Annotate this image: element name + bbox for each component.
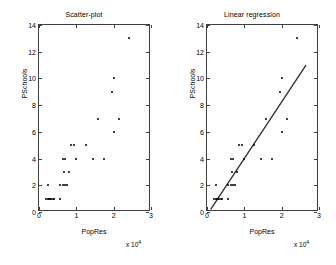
y-tick-label: 14 xyxy=(196,22,204,29)
y-tick-label: 4 xyxy=(200,155,204,162)
data-point xyxy=(70,144,72,146)
data-point xyxy=(113,131,115,133)
x-tick-label: 0 xyxy=(205,212,209,219)
y-tick-mark xyxy=(146,105,149,106)
y-tick-label: 6 xyxy=(200,128,204,135)
data-point xyxy=(73,144,75,146)
data-point xyxy=(85,144,87,146)
data-point xyxy=(66,184,68,186)
panel-scatter: Scatter-plot024681012140123PSchoolsPopRe… xyxy=(0,0,168,265)
data-point xyxy=(64,158,66,160)
data-point xyxy=(271,158,273,160)
y-tick-mark xyxy=(146,52,149,53)
x-tick-label: 0 xyxy=(37,212,41,219)
data-point xyxy=(118,118,120,120)
y-tick-mark xyxy=(39,185,42,186)
data-point xyxy=(236,171,238,173)
data-point xyxy=(128,37,130,39)
data-point xyxy=(241,144,243,146)
panel-regression: Linear regression024681012140123PSchools… xyxy=(168,0,336,265)
y-tick-label: 0 xyxy=(200,209,204,216)
data-point xyxy=(243,158,245,160)
data-point xyxy=(92,158,94,160)
data-point xyxy=(47,184,49,186)
data-point xyxy=(227,184,229,186)
plot-area: 024681012140123 xyxy=(38,24,150,211)
data-point xyxy=(286,118,288,120)
y-tick-label: 10 xyxy=(196,75,204,82)
data-point xyxy=(265,118,267,120)
data-point xyxy=(253,144,255,146)
x-tick-mark xyxy=(114,25,115,28)
figure-container: Scatter-plot024681012140123PSchoolsPopRe… xyxy=(0,0,336,265)
data-point xyxy=(281,77,283,79)
data-point xyxy=(234,184,236,186)
x-tick-mark xyxy=(151,207,152,210)
y-tick-label: 4 xyxy=(32,155,36,162)
data-point xyxy=(63,171,65,173)
x-tick-mark xyxy=(39,207,40,210)
panel-title: Linear regression xyxy=(168,11,336,18)
plot-area: 024681012140123 xyxy=(206,24,318,211)
data-point xyxy=(68,171,70,173)
y-axis-label: PSchools xyxy=(21,54,28,114)
data-point xyxy=(215,184,217,186)
y-tick-mark xyxy=(39,132,42,133)
x-tick-mark xyxy=(319,25,320,28)
x-tick-mark xyxy=(319,207,320,210)
data-point xyxy=(227,198,229,200)
data-point xyxy=(231,171,233,173)
data-point xyxy=(296,37,298,39)
y-tick-label: 12 xyxy=(28,48,36,55)
x-tick-label: 1 xyxy=(242,212,246,219)
data-point xyxy=(59,198,61,200)
y-tick-label: 2 xyxy=(32,182,36,189)
x-tick-mark xyxy=(39,25,40,28)
y-tick-mark xyxy=(39,52,42,53)
data-point xyxy=(260,158,262,160)
y-tick-mark xyxy=(146,132,149,133)
x-axis-exponent-label: x 104 xyxy=(126,239,141,248)
y-tick-label: 8 xyxy=(32,102,36,109)
x-tick-label: 3 xyxy=(149,212,153,219)
y-tick-mark xyxy=(146,159,149,160)
data-point xyxy=(97,118,99,120)
data-point xyxy=(238,144,240,146)
y-tick-label: 14 xyxy=(28,22,36,29)
y-tick-mark xyxy=(146,78,149,79)
y-tick-mark xyxy=(146,185,149,186)
y-tick-label: 0 xyxy=(32,209,36,216)
y-axis-label: PSchools xyxy=(189,54,196,114)
y-tick-label: 2 xyxy=(200,182,204,189)
data-point xyxy=(281,131,283,133)
x-tick-mark xyxy=(151,25,152,28)
x-tick-mark xyxy=(76,207,77,210)
y-tick-mark xyxy=(39,78,42,79)
x-tick-label: 1 xyxy=(74,212,78,219)
y-tick-mark xyxy=(39,105,42,106)
panel-title: Scatter-plot xyxy=(0,11,168,18)
x-tick-mark xyxy=(76,25,77,28)
x-tick-mark xyxy=(114,207,115,210)
data-point xyxy=(113,77,115,79)
y-tick-mark xyxy=(146,25,149,26)
y-tick-mark xyxy=(39,159,42,160)
x-tick-label: 3 xyxy=(317,212,321,219)
y-tick-label: 6 xyxy=(32,128,36,135)
data-point xyxy=(59,184,61,186)
x-axis-label: PopRes xyxy=(38,228,150,235)
data-point xyxy=(232,158,234,160)
data-point xyxy=(53,198,55,200)
data-point xyxy=(111,91,113,93)
x-axis-exponent-label: x 104 xyxy=(294,239,309,248)
y-tick-label: 10 xyxy=(28,75,36,82)
x-tick-label: 2 xyxy=(112,212,116,219)
y-tick-label: 12 xyxy=(196,48,204,55)
data-point xyxy=(221,198,223,200)
x-axis-label: PopRes xyxy=(206,228,318,235)
regression-line xyxy=(207,25,317,210)
y-tick-label: 8 xyxy=(200,102,204,109)
data-point xyxy=(103,158,105,160)
data-point xyxy=(279,91,281,93)
data-point xyxy=(75,158,77,160)
